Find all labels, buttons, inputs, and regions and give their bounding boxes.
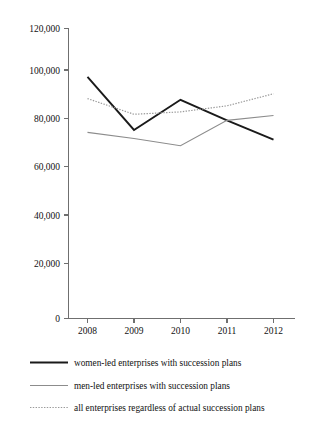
x-tick-label-2011: 2011 [218, 326, 237, 336]
series-line-women-led [88, 77, 274, 140]
legend-label-men-led: men-led enterprises with succession plan… [74, 381, 230, 391]
series-line-men-led [88, 116, 274, 146]
legend-label-women-led: women-led enterprises with succession pl… [74, 358, 242, 368]
y-axis-tick-labels: 120,000 100,000 80,000 60,000 40,000 20,… [29, 24, 60, 324]
y-tick-label-120000: 120,000 [29, 24, 60, 34]
chart-figure: 120,000 100,000 80,000 60,000 40,000 20,… [0, 0, 325, 422]
y-tick-label-60000: 60,000 [34, 162, 60, 172]
x-axis-tick-labels: 2008 2009 2010 2011 2012 [78, 326, 283, 336]
series-line-all-enterprises [88, 94, 274, 115]
x-axis-ticks [88, 319, 274, 324]
legend-label-all-enterprises: all enterprises regardless of actual suc… [74, 403, 265, 413]
chart-legend: women-led enterprises with succession pl… [30, 358, 265, 413]
y-tick-label-40000: 40,000 [34, 211, 60, 221]
y-axis-ticks [64, 29, 69, 319]
y-tick-label-80000: 80,000 [34, 114, 60, 124]
y-tick-label-100000: 100,000 [29, 66, 60, 76]
x-tick-label-2010: 2010 [171, 326, 190, 336]
x-tick-label-2012: 2012 [264, 326, 283, 336]
y-tick-label-20000: 20,000 [34, 259, 60, 269]
x-tick-label-2009: 2009 [125, 326, 144, 336]
data-series-layer [88, 77, 274, 146]
x-tick-label-2008: 2008 [78, 326, 97, 336]
y-tick-label-0: 0 [55, 314, 60, 324]
line-chart: 120,000 100,000 80,000 60,000 40,000 20,… [0, 0, 325, 422]
